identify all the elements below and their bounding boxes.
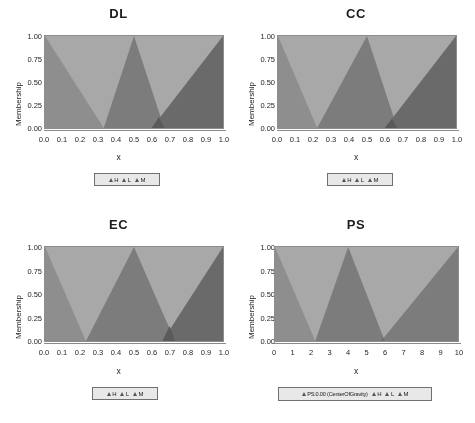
x-tick-label: 0.5 [129, 135, 139, 144]
legend-item-l[interactable]: L [385, 391, 394, 397]
y-tick-label: 0.75 [260, 55, 275, 64]
triangle-marker-icon [368, 178, 372, 182]
x-tick-label: 0.8 [183, 348, 193, 357]
x-tick-label: 2 [309, 348, 313, 357]
chart-panel-cc: CC Membership 1.00 0.75 0.50 0.25 0.00 0… [237, 0, 475, 211]
y-tick-label: 0.75 [27, 266, 42, 275]
triangle-marker-icon [355, 178, 359, 182]
legend-item-h[interactable]: H [107, 391, 117, 397]
chart-title-ec: EC [0, 217, 237, 232]
y-tick-label: 0.75 [27, 55, 42, 64]
x-tick-label: 4 [346, 348, 350, 357]
x-axis-ticks-ps: 0 1 2 3 4 5 6 7 8 9 10 [274, 344, 459, 360]
legend-item-l[interactable]: L [120, 391, 129, 397]
x-tick-label: 0.0 [39, 348, 49, 357]
chart-panel-dl: DL Membership 1.00 0.75 0.50 0.25 0.00 0… [0, 0, 237, 211]
plot-area-cc [277, 35, 457, 129]
x-tick-label: 0.5 [129, 348, 139, 357]
x-tick-label: 9 [438, 348, 442, 357]
legend-label: H [377, 391, 381, 397]
x-tick-label: 0.8 [416, 135, 426, 144]
triangle-marker-icon [135, 178, 139, 182]
triangle-marker-icon [120, 392, 124, 396]
x-tick-label: 0.6 [380, 135, 390, 144]
chart-title-ps: PS [237, 217, 475, 232]
x-tick-label: 1 [290, 348, 294, 357]
x-tick-label: 0.2 [75, 135, 85, 144]
x-tick-label: 0.4 [344, 135, 354, 144]
x-axis-label-cc: x [237, 152, 475, 162]
x-tick-label: 0.6 [147, 348, 157, 357]
x-tick-label: 5 [364, 348, 368, 357]
x-tick-label: 1.0 [219, 348, 229, 357]
legend-item-m[interactable]: M [368, 177, 378, 183]
x-axis-ticks-cc: 0.0 0.1 0.2 0.3 0.4 0.5 0.6 0.7 0.8 0.9 … [277, 131, 457, 147]
triangle-marker-icon [109, 178, 113, 182]
y-axis-label-ec: Membership [14, 253, 23, 339]
legend-ec[interactable]: H L M [92, 387, 158, 400]
legend-label: L [128, 177, 131, 183]
x-tick-label: 0.4 [111, 135, 121, 144]
x-tick-label: 0.9 [434, 135, 444, 144]
membership-curves-ps [275, 247, 458, 341]
y-tick-label: 0.00 [27, 124, 42, 133]
legend-item-l[interactable]: L [122, 177, 131, 183]
legend-label: H [112, 391, 116, 397]
plot-area-dl [44, 35, 224, 129]
y-tick-label: 0.25 [27, 313, 42, 322]
chart-panel-ps: PS Membership 1.00 0.75 0.50 0.25 0.00 0… [237, 211, 475, 423]
x-axis-label-dl: x [0, 152, 237, 162]
x-tick-label: 0.1 [290, 135, 300, 144]
legend-item-h[interactable]: H [109, 177, 119, 183]
y-axis-ticks-ps: 1.00 0.75 0.50 0.25 0.00 [257, 247, 275, 341]
x-tick-label: 0.0 [39, 135, 49, 144]
legend-item-m[interactable]: M [133, 391, 143, 397]
y-tick-label: 1.00 [27, 243, 42, 252]
legend-label: M [404, 391, 409, 397]
x-tick-label: 0.9 [201, 348, 211, 357]
x-tick-label: 0.3 [326, 135, 336, 144]
legend-cc[interactable]: H L M [327, 173, 393, 186]
legend-label: M [373, 177, 378, 183]
triangle-marker-icon [302, 392, 306, 396]
x-tick-label: 0.1 [57, 135, 67, 144]
legend-item-m[interactable]: M [398, 391, 408, 397]
plot-area-ec [44, 246, 224, 342]
legend-label: H [347, 177, 351, 183]
x-axis-label-ec: x [0, 366, 237, 376]
legend-ps[interactable]: PS:0.00 (CenterOfGravity) H L M [278, 387, 432, 401]
legend-label: L [361, 177, 364, 183]
legend-item-ps-cog[interactable]: PS:0.00 (CenterOfGravity) [302, 391, 368, 397]
x-axis-ticks-ec: 0.0 0.1 0.2 0.3 0.4 0.5 0.6 0.7 0.8 0.9 … [44, 344, 224, 360]
chart-panel-ec: EC Membership 1.00 0.75 0.50 0.25 0.00 0… [0, 211, 237, 423]
x-tick-label: 0.6 [147, 135, 157, 144]
legend-label: M [138, 391, 143, 397]
x-tick-label: 0.0 [272, 135, 282, 144]
legend-label: M [140, 177, 145, 183]
triangle-marker-icon [133, 392, 137, 396]
y-tick-label: 0.50 [260, 290, 275, 299]
y-axis-ticks-cc: 1.00 0.75 0.50 0.25 0.00 [257, 36, 275, 128]
y-tick-label: 0.00 [27, 337, 42, 346]
legend-item-h[interactable]: H [372, 391, 382, 397]
triangle-marker-icon [372, 392, 376, 396]
x-tick-label: 0.7 [398, 135, 408, 144]
x-tick-label: 1.0 [219, 135, 229, 144]
legend-label: L [126, 391, 129, 397]
y-tick-label: 1.00 [260, 243, 275, 252]
x-tick-label: 0.5 [362, 135, 372, 144]
y-axis-ticks-dl: 1.00 0.75 0.50 0.25 0.00 [24, 36, 42, 128]
triangle-marker-icon [122, 178, 126, 182]
plot-area-ps [274, 246, 459, 342]
triangle-marker-icon [398, 392, 402, 396]
legend-item-l[interactable]: L [355, 177, 364, 183]
x-tick-label: 0.2 [308, 135, 318, 144]
legend-item-m[interactable]: M [135, 177, 145, 183]
y-tick-label: 1.00 [260, 32, 275, 41]
legend-dl[interactable]: H L M [94, 173, 160, 186]
legend-item-h[interactable]: H [342, 177, 352, 183]
y-tick-label: 0.00 [260, 124, 275, 133]
x-tick-label: 8 [420, 348, 424, 357]
x-tick-label: 0.8 [183, 135, 193, 144]
y-tick-label: 0.75 [260, 266, 275, 275]
